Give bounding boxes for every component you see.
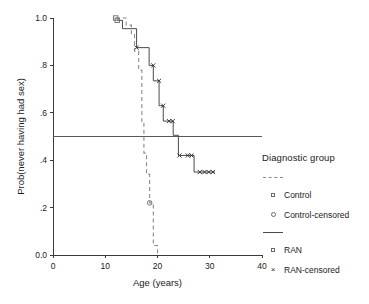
x-tick-label: 30 <box>205 261 215 271</box>
legend-label-ran-censored: RAN-censored <box>284 265 340 275</box>
y-tick-label: .8 <box>40 60 47 70</box>
legend-item-control-line <box>262 172 368 182</box>
kaplan-meier-figure: 0.0.2.4.6.81.0010203040Age (years)Prob(n… <box>0 0 369 304</box>
x-axis-title: Age (years) <box>133 277 182 288</box>
legend-label-ran: RAN <box>284 245 302 255</box>
cross-marker-icon: × <box>262 264 284 276</box>
legend-item-ran-line <box>262 227 368 237</box>
y-tick-label: 1.0 <box>35 13 47 23</box>
chart-legend: Diagnostic group Control Control-censore… <box>262 152 368 282</box>
x-tick-label: 10 <box>101 261 111 271</box>
legend-item-ran: RAN <box>262 242 368 257</box>
legend-item-ran-censored: × RAN-censored <box>262 262 368 277</box>
solid-line-icon <box>262 226 284 238</box>
y-tick-label: .4 <box>40 155 47 165</box>
dashed-line-icon <box>262 171 284 183</box>
square-marker-icon <box>262 244 284 256</box>
y-tick-label: .2 <box>40 203 47 213</box>
legend-item-control: Control <box>262 187 368 202</box>
y-tick-label: 0.0 <box>35 250 47 260</box>
circle-marker-icon <box>262 209 284 221</box>
x-tick-label: 20 <box>153 261 163 271</box>
legend-label-control-censored: Control-censored <box>284 210 349 220</box>
legend-item-control-censored: Control-censored <box>262 207 368 222</box>
x-tick-label: 0 <box>51 261 56 271</box>
y-axis-title: Prob(never having had sex) <box>15 78 26 195</box>
y-tick-label: .6 <box>40 108 47 118</box>
square-marker-icon <box>262 189 284 201</box>
censor-markers <box>114 16 215 205</box>
legend-title: Diagnostic group <box>262 152 368 163</box>
legend-label-control: Control <box>284 190 311 200</box>
curve-ran <box>117 20 215 172</box>
axes <box>50 18 262 258</box>
